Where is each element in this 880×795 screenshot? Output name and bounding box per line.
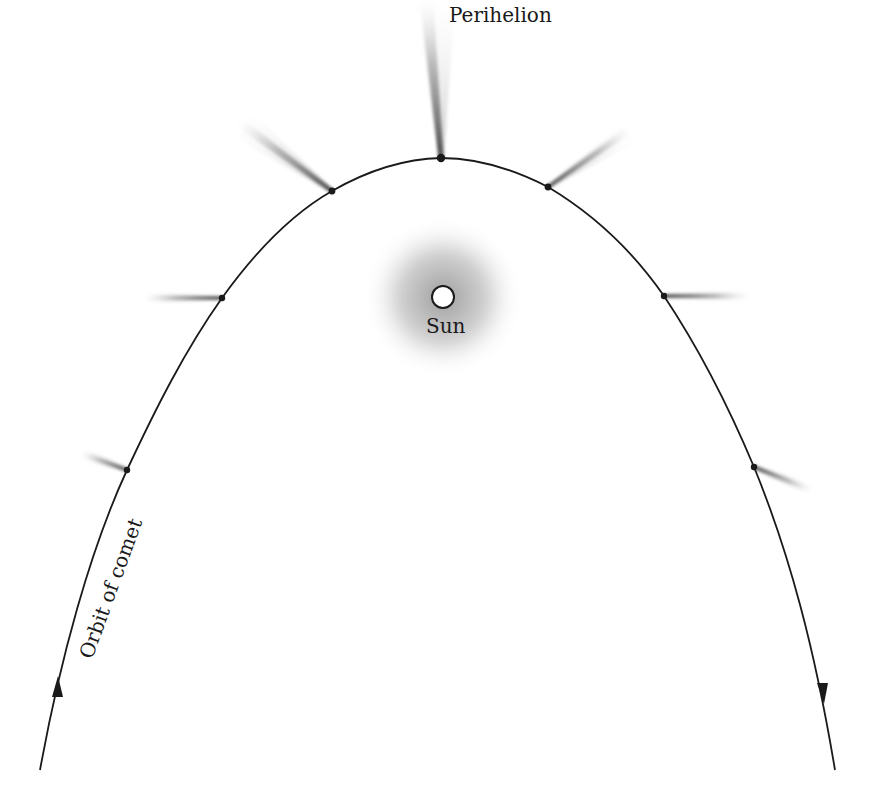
comet-orbit-diagram: Perihelion Sun Orbit of comet bbox=[0, 0, 880, 795]
comet-dot bbox=[219, 295, 225, 301]
comet-tail-7 bbox=[751, 461, 814, 497]
comet-dot bbox=[124, 467, 130, 473]
comet-tail-5 bbox=[543, 123, 638, 198]
comet-tail-6 bbox=[664, 290, 749, 302]
arrow-up-icon bbox=[52, 676, 63, 697]
diagram-canvas: Perihelion Sun Orbit of comet bbox=[0, 0, 880, 795]
sun-icon bbox=[432, 286, 454, 308]
comet-dot bbox=[329, 188, 336, 195]
comet-dot-perihelion bbox=[437, 154, 445, 162]
perihelion-label: Perihelion bbox=[449, 3, 552, 27]
comet-dot bbox=[545, 184, 552, 191]
comet-dot bbox=[661, 293, 667, 299]
comet-tail-3 bbox=[231, 111, 341, 204]
comet-tail-1 bbox=[80, 447, 130, 477]
comet-tail-2 bbox=[144, 292, 222, 304]
orbit-label: Orbit of comet bbox=[74, 515, 147, 662]
sun-label: Sun bbox=[426, 314, 466, 338]
comet-dot bbox=[751, 464, 757, 470]
